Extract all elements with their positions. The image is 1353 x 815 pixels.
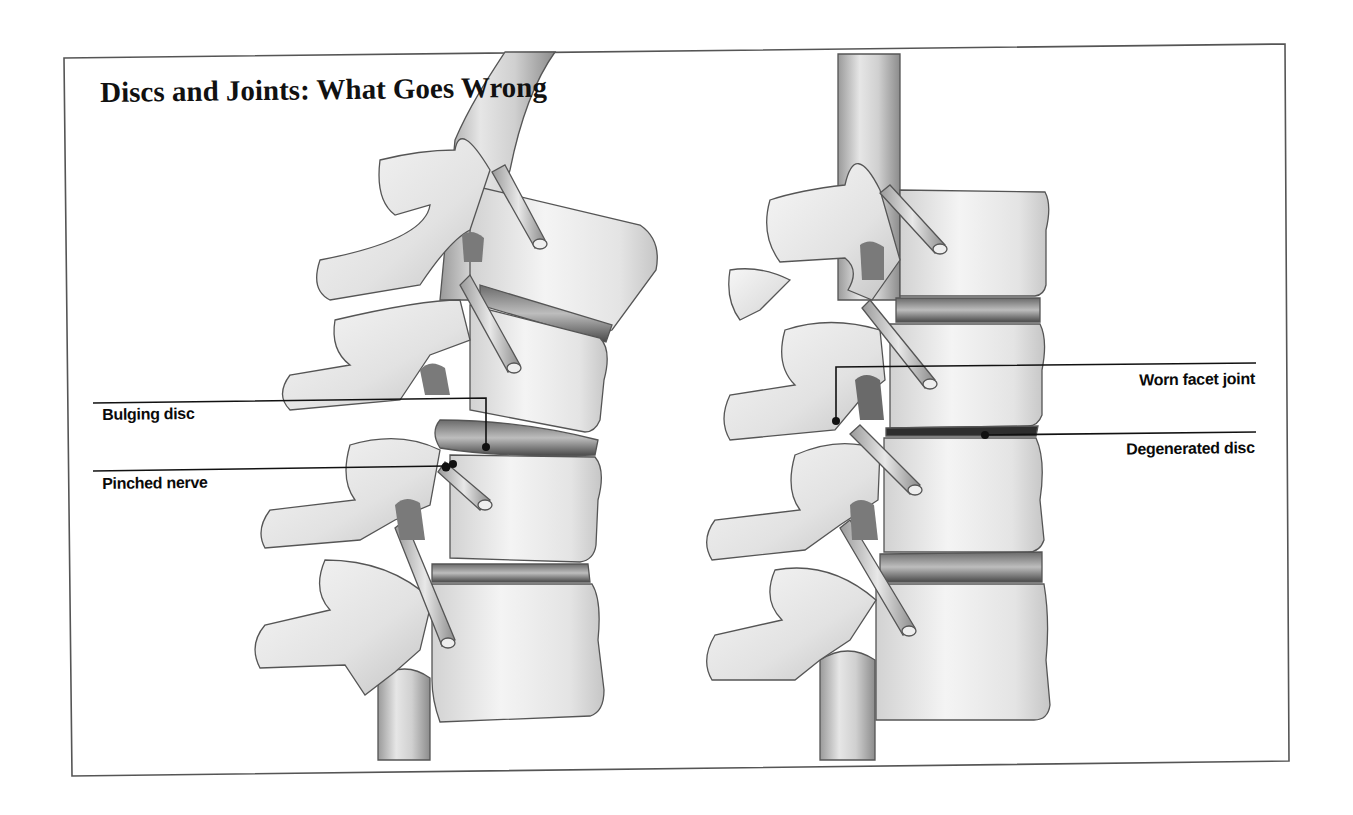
vertebral-body-3-right [884, 438, 1044, 552]
spinal-cord-bottom-right [820, 651, 875, 760]
disc-3-right [880, 552, 1042, 582]
vertebral-body-1-right [900, 190, 1049, 296]
vertebral-body-4-right [876, 584, 1050, 720]
disc-3-left [432, 564, 590, 582]
pinched-nerve-label: Pinched nerve [102, 474, 208, 493]
worn-facet-joint-dot [832, 417, 840, 425]
spine-illustration [0, 0, 1353, 815]
degenerated-disc-dot [981, 431, 989, 439]
bulging-disc-label: Bulging disc [102, 405, 195, 424]
figure-frame [64, 44, 1289, 776]
bulging-disc-dot [482, 443, 490, 451]
disc-1-right [896, 298, 1040, 322]
vertebral-body-4-left [432, 584, 604, 722]
worn-facet-joint-label: Worn facet joint [1139, 370, 1255, 389]
vertebral-body-3-left [450, 455, 601, 562]
degenerated-disc-label: Degenerated disc [1126, 439, 1255, 459]
vertebral-body-2-right [890, 324, 1045, 428]
spinal-cord-bottom-left [378, 669, 430, 760]
figure-title: Discs and Joints: What Goes Wrong [100, 71, 547, 109]
